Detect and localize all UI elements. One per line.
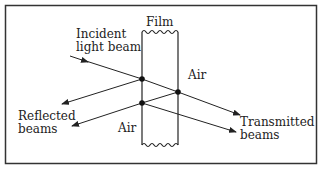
- reflected-label-line1: Reflected: [18, 109, 76, 123]
- reflected-ray-1: [62, 79, 142, 104]
- reflected-label-line2: beams: [18, 122, 57, 136]
- thin-film-diagram: Film Incident light beam Air Air Reflect…: [0, 0, 319, 172]
- incident-label-line2: light beam: [76, 40, 142, 54]
- film-label: Film: [146, 15, 174, 29]
- air-right-label: Air: [187, 68, 207, 82]
- air-left-label: Air: [117, 121, 137, 135]
- incident-ray: [70, 56, 88, 62]
- film: [142, 31, 178, 147]
- incident-label-line1: Incident: [76, 27, 127, 41]
- transmitted-ray-2: [142, 103, 236, 132]
- transmitted-ray-1: [178, 92, 240, 115]
- transmitted-label-line1: Transmitted: [240, 115, 315, 129]
- light-rays: [62, 56, 240, 132]
- transmitted-label-line2: beams: [240, 128, 279, 142]
